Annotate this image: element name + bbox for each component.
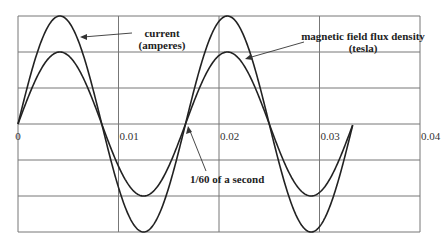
flux-arrow xyxy=(248,42,304,58)
x-tick-label: 0.04 xyxy=(421,130,441,142)
current-label-line2: (amperes) xyxy=(139,39,186,52)
arrowhead-icon xyxy=(245,54,253,60)
flux-label-line1: magnetic field flux density xyxy=(301,30,425,42)
annotation-current: current (amperes) xyxy=(80,27,186,52)
current-arrow xyxy=(83,33,132,37)
arrowhead-icon xyxy=(80,34,87,40)
x-tick-label: 0.03 xyxy=(321,130,341,142)
x-tick-label: 0.01 xyxy=(120,130,139,142)
x-tick-label: 0 xyxy=(15,130,21,142)
x-tick-labels: 00.010.020.030.04 xyxy=(15,130,441,142)
current-label-line1: current xyxy=(144,27,180,39)
x-tick-label: 0.02 xyxy=(220,130,239,142)
period-arrow xyxy=(190,131,206,171)
annotation-flux: magnetic field flux density (tesla) xyxy=(245,30,425,60)
period-label: 1/60 of a second xyxy=(190,173,264,185)
sine-wave-chart: 00.010.020.030.04 current (amperes) magn… xyxy=(0,0,444,248)
flux-label-line2: (tesla) xyxy=(349,42,378,55)
